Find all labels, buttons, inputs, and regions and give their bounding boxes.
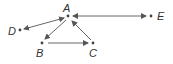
node-c: [92, 42, 95, 45]
graph-diagram: A B C D E: [0, 0, 173, 64]
label-d: D: [8, 25, 16, 37]
node-b: [41, 42, 44, 45]
node-e: [150, 15, 153, 18]
label-b: B: [36, 47, 43, 59]
edge-c-a: [72, 21, 91, 40]
node-a: [67, 15, 70, 18]
label-e: E: [157, 10, 165, 22]
label-a: A: [62, 2, 70, 14]
edge-a-b: [45, 20, 66, 39]
label-c: C: [89, 47, 97, 59]
node-d: [19, 29, 22, 32]
